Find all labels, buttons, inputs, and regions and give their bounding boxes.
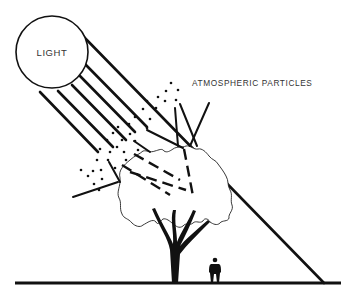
light-label: LIGHT [37,47,68,58]
person-silhouette [209,258,221,283]
light-scattering-diagram: LIGHT [0,0,341,298]
atmospheric-particles-label: ATMOSPHERIC PARTICLES [192,78,312,88]
light-source: LIGHT [16,16,88,88]
tree [118,146,232,283]
